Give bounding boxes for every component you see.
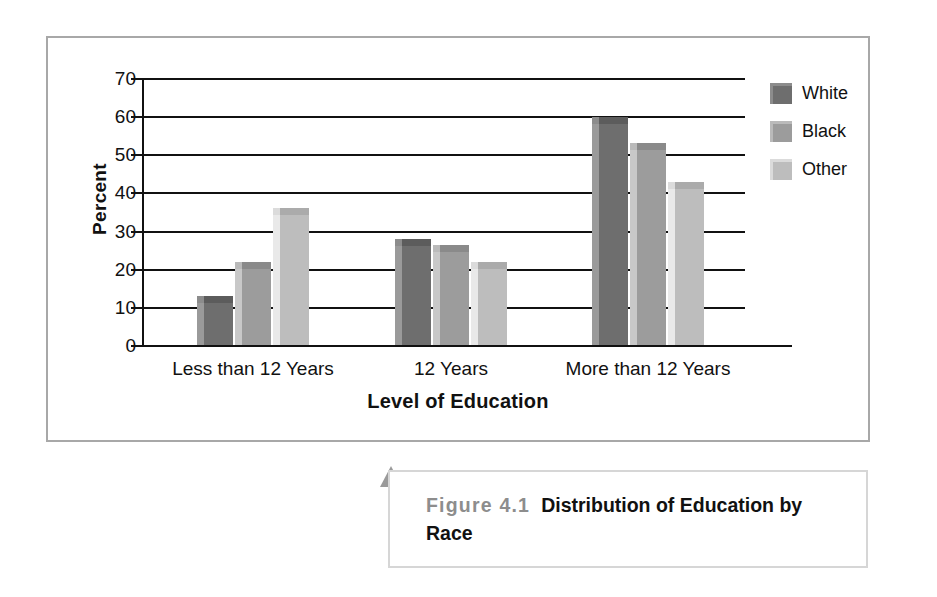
bar-left-edge	[235, 269, 242, 345]
bar-top-left-bevel	[395, 239, 402, 246]
bar-top-left-bevel	[668, 182, 675, 189]
figure-number: Figure 4.1	[426, 494, 530, 516]
bar-top-left-bevel	[592, 117, 599, 124]
gridline	[142, 78, 745, 80]
bar-less-than-12-years-other	[273, 215, 309, 345]
y-axis-tick	[131, 78, 142, 80]
bar-top-left-bevel	[471, 262, 478, 269]
bar-12-years-other	[471, 269, 507, 345]
bar-left-edge	[197, 303, 204, 345]
bar-top-left-bevel	[433, 245, 440, 252]
bar-12-years-black	[433, 252, 469, 345]
figure-caption-box: Figure 4.1Distribution of Education by R…	[388, 470, 868, 568]
legend-swatch-icon	[770, 83, 792, 104]
y-axis-tick	[131, 307, 142, 309]
chart-legend: WhiteBlackOther	[770, 74, 870, 188]
bar-12-years-white	[395, 246, 431, 345]
legend-item-other: Other	[770, 150, 870, 188]
x-axis-baseline	[142, 345, 792, 347]
legend-swatch-icon	[770, 121, 792, 142]
y-axis-tick	[131, 192, 142, 194]
x-axis-tick-label: Less than 12 Years	[143, 358, 363, 380]
bar-left-edge	[592, 124, 599, 345]
bar-top-left-bevel	[197, 296, 204, 303]
x-axis-tick-label: 12 Years	[341, 358, 561, 380]
bar-more-than-12-years-white	[592, 124, 628, 345]
y-axis-tick	[131, 154, 142, 156]
legend-label: Other	[802, 159, 847, 180]
gridline	[142, 116, 745, 118]
y-axis-tick	[131, 231, 142, 233]
chart-frame: Percent 010203040506070 Less than 12 Yea…	[46, 36, 870, 442]
legend-swatch-face	[773, 162, 792, 180]
bar-left-edge	[471, 269, 478, 345]
legend-item-black: Black	[770, 112, 870, 150]
bar-more-than-12-years-black	[630, 150, 666, 345]
bar-left-edge	[630, 150, 637, 345]
bar-top-left-bevel	[630, 143, 637, 150]
bar-less-than-12-years-white	[197, 303, 233, 345]
bar-left-edge	[668, 189, 675, 345]
y-axis-tick	[131, 345, 142, 347]
bar-more-than-12-years-other	[668, 189, 704, 345]
figure-caption: Figure 4.1Distribution of Education by R…	[426, 492, 846, 547]
legend-swatch-face	[773, 86, 792, 104]
y-axis-tick	[131, 269, 142, 271]
x-axis-title: Level of Education	[48, 390, 868, 413]
legend-label: Black	[802, 121, 846, 142]
bar-left-edge	[273, 215, 280, 345]
legend-swatch-face	[773, 124, 792, 142]
y-axis-tick	[131, 116, 142, 118]
bar-less-than-12-years-black	[235, 269, 271, 345]
bar-top-left-bevel	[235, 262, 242, 269]
bar-top-left-bevel	[273, 208, 280, 215]
bar-left-edge	[395, 246, 402, 345]
legend-swatch-icon	[770, 159, 792, 180]
legend-item-white: White	[770, 74, 870, 112]
bar-left-edge	[433, 252, 440, 345]
legend-label: White	[802, 83, 848, 104]
figure-4-1: Percent 010203040506070 Less than 12 Yea…	[0, 0, 937, 597]
x-axis-tick-label: More than 12 Years	[538, 358, 758, 380]
plot-area	[142, 78, 745, 345]
